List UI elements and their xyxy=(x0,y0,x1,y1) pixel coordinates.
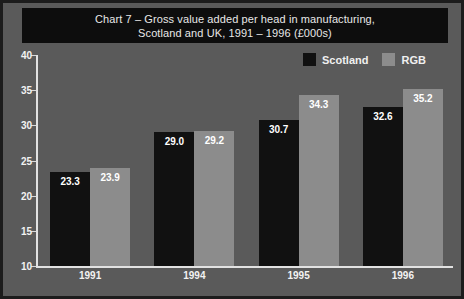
bar-value-label: 23.3 xyxy=(50,176,90,187)
bar-scotland-1996: 32.6 xyxy=(363,107,403,266)
bar-value-label: 23.9 xyxy=(90,172,130,183)
y-tick-label: 15 xyxy=(21,225,32,236)
y-tick-label: 25 xyxy=(21,155,32,166)
x-tick-label-1991: 1991 xyxy=(79,270,101,281)
bar-rgb-1995: 34.3 xyxy=(299,95,339,266)
y-tick-label: 35 xyxy=(21,85,32,96)
y-tick-label: 10 xyxy=(21,261,32,272)
bar-value-label: 35.2 xyxy=(403,93,443,104)
x-tick-label-1995: 1995 xyxy=(288,270,310,281)
page-title: Chart 7 – Gross value added per head in … xyxy=(95,12,375,40)
bar-scotland-1995: 30.7 xyxy=(259,120,299,266)
plot-area: 10152025303540 23.323.929.029.230.734.33… xyxy=(36,55,453,268)
bar-value-label: 32.6 xyxy=(363,111,403,122)
bar-rgb-1996: 35.2 xyxy=(403,89,443,266)
chart-title-banner: Chart 7 – Gross value added per head in … xyxy=(22,8,448,43)
chart-figure: Chart 7 – Gross value added per head in … xyxy=(0,0,464,299)
y-tick-label: 20 xyxy=(21,190,32,201)
bar-value-label: 29.2 xyxy=(194,135,234,146)
bar-value-label: 34.3 xyxy=(299,99,339,110)
bar-rgb-1991: 23.9 xyxy=(90,168,130,266)
bar-rgb-1994: 29.2 xyxy=(194,131,234,266)
x-tick-label-1996: 1996 xyxy=(392,270,414,281)
bar-value-label: 30.7 xyxy=(259,124,299,135)
bar-value-label: 29.0 xyxy=(154,136,194,147)
bar-scotland-1994: 29.0 xyxy=(154,132,194,266)
y-tick-label: 30 xyxy=(21,120,32,131)
x-tick-label-1994: 1994 xyxy=(183,270,205,281)
y-axis-line xyxy=(36,55,38,268)
x-axis-line xyxy=(36,266,453,268)
y-tick-label: 40 xyxy=(21,50,32,61)
bar-scotland-1991: 23.3 xyxy=(50,172,90,266)
